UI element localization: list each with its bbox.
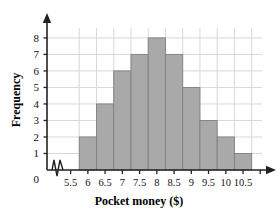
x-axis-title: Pocket money ($) — [95, 194, 184, 208]
y-axis-tick-label: 1 — [34, 147, 40, 159]
histogram-bar — [114, 71, 131, 170]
histogram-bar — [148, 38, 165, 170]
x-axis-tick-label: 5.5 — [64, 177, 77, 188]
x-axis-tick-label: 9.5 — [202, 177, 215, 188]
x-axis-tick-label: 8 — [154, 177, 159, 188]
histogram-bar — [234, 153, 251, 170]
histogram-bar — [165, 54, 182, 170]
histogram-bar — [131, 54, 148, 170]
x-axis-tick-label: 6 — [85, 177, 90, 188]
y-axis-title: Frequency — [9, 73, 23, 127]
histogram-bar — [217, 137, 234, 170]
x-axis-tick-label: 10 — [221, 177, 232, 188]
x-axis-tick-label: 7 — [120, 177, 125, 188]
y-axis-tick-label: 5 — [34, 81, 40, 93]
y-axis-tick-label: 2 — [34, 131, 40, 143]
y-axis-tick-label: 4 — [34, 98, 40, 110]
x-axis-tick-label: 8.5 — [168, 177, 181, 188]
x-axis-arrow — [266, 166, 276, 174]
x-axis-tick-label: 10.5 — [234, 177, 252, 188]
y-axis-tick-label: 6 — [34, 65, 40, 77]
x-axis-tick-label: 7.5 — [133, 177, 146, 188]
histogram-bar — [96, 104, 113, 170]
x-axis-break-symbol — [52, 160, 63, 176]
histogram-bar — [79, 137, 96, 170]
x-axis-tick-label: 9 — [189, 177, 194, 188]
y-axis-tick-label: 8 — [34, 32, 40, 44]
y-axis-tick-label: 7 — [34, 48, 40, 60]
y-axis-arrow — [43, 13, 51, 23]
y-axis-tick-label: 3 — [34, 114, 40, 126]
histogram-figure: 0123456785.566.577.588.599.51010.5Pocket… — [0, 0, 278, 218]
histogram-bar — [183, 87, 200, 170]
pocket-money-histogram: 0123456785.566.577.588.599.51010.5Pocket… — [0, 0, 278, 218]
y-axis-tick-label: 0 — [34, 173, 40, 185]
histogram-bar — [200, 120, 217, 170]
x-axis-tick-label: 6.5 — [99, 177, 112, 188]
